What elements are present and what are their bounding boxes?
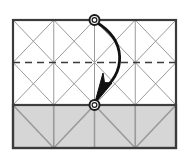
- crease-pattern-canvas: [0, 0, 186, 158]
- shaded-band-group: [13, 105, 176, 148]
- origami-diagram-figure: Origami fold step diagram Bring the top …: [0, 0, 186, 158]
- source-point-marker: [90, 15, 100, 25]
- target-point-marker: [90, 100, 100, 110]
